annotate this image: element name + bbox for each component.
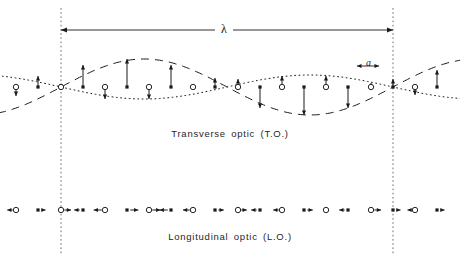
open-atom — [368, 207, 373, 212]
open-atom — [323, 207, 328, 212]
open-atom — [279, 84, 284, 89]
filled-atom — [81, 85, 84, 88]
open-atom — [323, 84, 328, 89]
filled-atom — [213, 208, 216, 211]
filled-atom — [125, 208, 128, 211]
open-atom — [146, 207, 151, 212]
filled-atom — [125, 85, 128, 88]
filled-atom — [435, 208, 438, 211]
open-atom — [58, 207, 63, 212]
filled-atom — [36, 85, 39, 88]
open-atom — [190, 84, 195, 89]
open-atom — [235, 207, 240, 212]
wavelength-symbol-label: λ — [221, 22, 227, 37]
filled-atom — [258, 85, 261, 88]
open-atom — [190, 207, 195, 212]
open-atom — [235, 84, 240, 89]
open-atom — [412, 84, 417, 89]
open-atom — [368, 84, 373, 89]
longitudinal-atom-14 — [323, 207, 328, 212]
filled-atom — [302, 85, 305, 88]
transverse-atom-8 — [190, 84, 195, 90]
open-atom — [412, 207, 417, 212]
transverse-optic-caption: Transverse optic (T.O.) — [0, 128, 460, 139]
longitudinal-optic-caption: Longitudinal optic (L.O.) — [0, 231, 460, 242]
open-atom — [102, 84, 107, 89]
filled-atom — [346, 208, 349, 211]
filled-atom — [213, 85, 216, 88]
open-atom — [13, 84, 18, 89]
filled-atom — [258, 208, 261, 211]
open-atom — [102, 207, 107, 212]
lattice-spacing-symbol-label: a — [366, 57, 371, 68]
filled-atom — [36, 208, 39, 211]
open-atom — [13, 207, 18, 212]
open-atom — [58, 84, 63, 89]
filled-atom — [346, 85, 349, 88]
open-atom — [146, 84, 151, 89]
filled-atom — [391, 85, 394, 88]
filled-atom — [169, 208, 172, 211]
filled-atom — [169, 85, 172, 88]
filled-atom — [81, 208, 84, 211]
filled-atom — [302, 208, 305, 211]
transverse-atom-2 — [58, 84, 63, 89]
filled-atom — [435, 85, 438, 88]
open-atom — [279, 207, 284, 212]
filled-atom — [391, 208, 394, 211]
